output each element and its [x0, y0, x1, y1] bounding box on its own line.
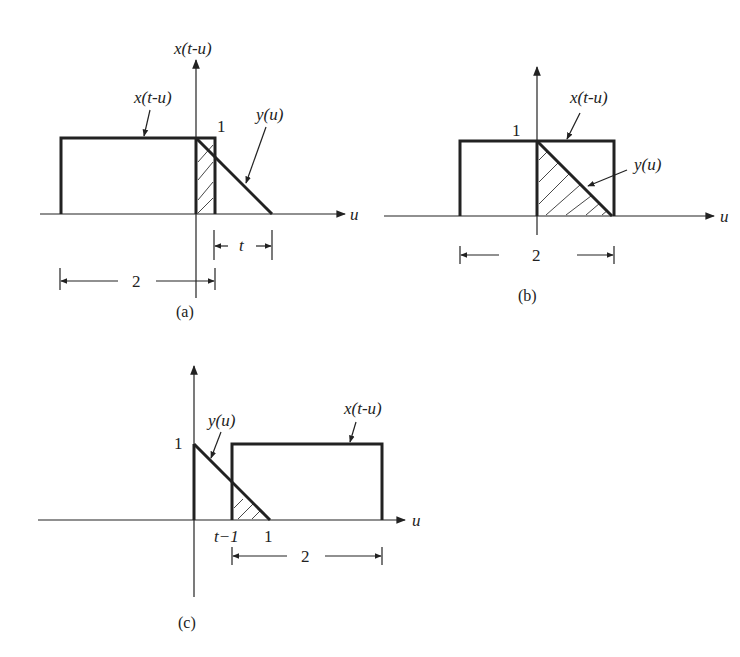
u-axis-label: u — [350, 205, 359, 224]
rect-x-t-u — [61, 138, 215, 214]
panel-c: u y(u) x(t-u) 1 t−1 1 2 (c) — [38, 366, 421, 632]
width-label: 2 — [132, 272, 141, 291]
rect-label: x(t-u) — [133, 88, 172, 107]
rect-pointer-arrow — [144, 110, 150, 136]
rect-label: x(t-u) — [569, 88, 608, 107]
triangle-label: y(u) — [632, 155, 662, 174]
vertical-axis-title: x(t-u) — [173, 39, 212, 58]
panel-a: u x(t-u) x(t-u) y(u) 1 t 2 (a) — [40, 39, 359, 321]
u-axis-label: u — [412, 511, 421, 530]
convolution-diagram: u x(t-u) x(t-u) y(u) 1 t 2 (a) — [0, 0, 740, 657]
rect-pointer-arrow — [567, 113, 580, 139]
triangle-pointer-arrow — [588, 170, 627, 186]
panel-b: u x(t-u) y(u) 1 2 (b) — [384, 67, 729, 305]
triangle-pointer-arrow — [246, 127, 266, 183]
tick-t-minus-1: t−1 — [214, 527, 239, 546]
triangle-y-u — [196, 138, 272, 214]
u-axis-label: u — [720, 207, 729, 226]
overlap-hatch — [539, 152, 608, 215]
caption-a: (a) — [176, 303, 194, 321]
caption-b: (b) — [518, 287, 537, 305]
width-label: 2 — [301, 547, 310, 566]
triangle-label: y(u) — [206, 411, 236, 430]
rect-x-t-u — [232, 444, 382, 520]
rect-label: x(t-u) — [343, 399, 382, 418]
tick-1: 1 — [264, 527, 273, 546]
height-label: 1 — [174, 434, 183, 453]
overlap-hatch — [198, 145, 213, 213]
height-label: 1 — [217, 117, 226, 136]
height-label: 1 — [512, 121, 521, 140]
rect-pointer-arrow — [350, 422, 356, 442]
caption-c: (c) — [178, 614, 196, 632]
triangle-y-u — [537, 141, 612, 216]
width-label: 2 — [532, 246, 541, 265]
shift-label: t — [239, 236, 245, 255]
triangle-label: y(u) — [254, 105, 284, 124]
triangle-pointer-arrow — [211, 432, 221, 458]
